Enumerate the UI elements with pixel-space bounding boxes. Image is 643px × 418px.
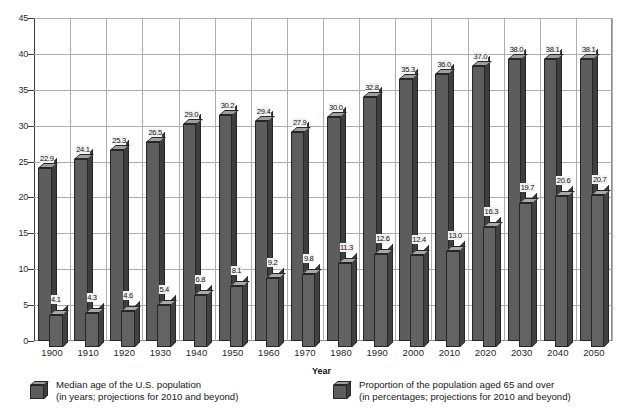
bar-proportion-65-over (230, 281, 244, 347)
bar-face (591, 195, 605, 347)
y-axis-tick-label: 35 (6, 85, 28, 95)
bar-proportion-65-over (591, 190, 605, 347)
bar-proportion-65-over (49, 310, 63, 347)
bar-value-label: 38.1 (545, 45, 560, 54)
y-axis-tick-label: 10 (6, 264, 28, 274)
legend-label-line1: Median age of the U.S. population (56, 379, 238, 391)
bar-face (194, 295, 208, 347)
legend-label-line2: (in years; projections for 2010 and beyo… (56, 391, 238, 403)
bar-value-label: 11.3 (340, 243, 354, 252)
bar-side (460, 241, 465, 347)
legend-item-median-age: Median age of the U.S. population (in ye… (30, 379, 238, 402)
bar-face (85, 313, 99, 347)
y-axis-tick-label: 30 (6, 121, 28, 131)
bar-value-label: 9.2 (267, 258, 278, 267)
bar-proportion-65-over (338, 258, 352, 347)
bars-layer: 22.94.124.14.325.34.626.55.429.06.830.28… (34, 18, 612, 341)
bar-face (49, 315, 63, 347)
bar-face (121, 311, 135, 347)
bar-face (555, 196, 569, 347)
legend-label-line1: Proportion of the population aged 65 and… (359, 379, 571, 391)
bar-value-label: 13.0 (448, 231, 463, 240)
bar-proportion-65-over (483, 222, 497, 347)
bar-value-label: 25.3 (112, 136, 127, 145)
y-axis-tick-label: 5 (6, 300, 28, 310)
cube-swatch-icon (30, 381, 48, 399)
bar-face (374, 254, 388, 347)
bar-value-label: 20.6 (556, 176, 571, 185)
bar-value-label: 4.1 (51, 295, 62, 304)
bar-value-label: 36.0 (437, 60, 452, 69)
bar-value-label: 12.4 (412, 235, 427, 244)
bar-side (315, 264, 320, 347)
bar-side (424, 245, 429, 347)
bar-face (446, 251, 460, 347)
bar-value-label: 30.2 (220, 101, 235, 110)
bar-proportion-65-over (85, 308, 99, 347)
y-axis-tick (28, 341, 34, 342)
bar-value-label: 35.3 (401, 65, 416, 74)
bar-value-label: 9.8 (303, 254, 314, 263)
bar-value-label: 30.0 (329, 103, 344, 112)
bar-value-label: 29.4 (256, 107, 271, 116)
y-axis-tick-label: 40 (6, 49, 28, 59)
cube-swatch-icon (333, 381, 351, 399)
bar-side (352, 253, 357, 347)
bar-side (388, 244, 393, 347)
bar-face (410, 255, 424, 347)
bar-value-label: 19.7 (520, 183, 535, 192)
bar-value-label: 4.3 (87, 293, 98, 302)
bar-side (532, 193, 537, 347)
bar-value-label: 38.1 (581, 45, 596, 54)
bar-side (496, 217, 501, 347)
bar-value-label: 29.0 (184, 110, 199, 119)
bar-side (243, 276, 248, 347)
legend-item-proportion-65-over: Proportion of the population aged 65 and… (333, 379, 571, 402)
bar-face (519, 203, 533, 347)
bar-face (266, 278, 280, 347)
bar-face (483, 227, 497, 347)
bar-proportion-65-over (157, 300, 171, 347)
y-axis-tick-label: 25 (6, 157, 28, 167)
bar-proportion-65-over (194, 290, 208, 347)
bar-value-label: 8.1 (231, 266, 242, 275)
gridline-vertical (612, 18, 613, 341)
bar-value-label: 24.1 (76, 145, 91, 154)
bar-proportion-65-over (302, 269, 316, 347)
bar-side (604, 185, 609, 347)
bar-face (230, 286, 244, 347)
bar-proportion-65-over (374, 249, 388, 347)
bar-value-label: 5.4 (159, 285, 170, 294)
x-axis-tick-label: 2050 (571, 347, 617, 358)
y-axis-tick-label: 20 (6, 192, 28, 202)
bar-proportion-65-over (555, 191, 569, 347)
bar-value-label: 38.0 (509, 45, 524, 54)
bar-face (302, 274, 316, 347)
bar-proportion-65-over (410, 250, 424, 347)
bar-value-label: 27.9 (292, 118, 307, 127)
bar-value-label: 16.3 (484, 207, 499, 216)
bar-value-label: 20.7 (592, 175, 607, 184)
bar-chart: 454035302520151050 22.94.124.14.325.34.6… (0, 0, 643, 418)
bar-value-label: 4.6 (123, 291, 134, 300)
x-axis-title: Year (0, 366, 643, 376)
bar-proportion-65-over (519, 198, 533, 347)
y-axis-tick-label: 15 (6, 228, 28, 238)
bar-side (568, 186, 573, 347)
bar-face (157, 305, 171, 347)
bar-proportion-65-over (446, 246, 460, 347)
bar-value-label: 37.0 (473, 52, 488, 61)
bar-value-label: 22.9 (40, 154, 55, 163)
bar-value-label: 32.8 (365, 83, 380, 92)
bar-value-label: 6.8 (195, 275, 206, 284)
y-axis-tick-label: 0 (6, 336, 28, 346)
bar-value-label: 26.5 (148, 128, 163, 137)
y-axis-tick-label: 45 (6, 13, 28, 23)
bar-face (338, 263, 352, 347)
legend-label-line2: (in percentages; projections for 2010 an… (359, 391, 571, 403)
bar-side (279, 268, 284, 347)
bar-proportion-65-over (266, 273, 280, 347)
bar-value-label: 12.6 (376, 234, 391, 243)
chart-legend: Median age of the U.S. population (in ye… (0, 377, 643, 415)
bar-proportion-65-over (121, 306, 135, 347)
